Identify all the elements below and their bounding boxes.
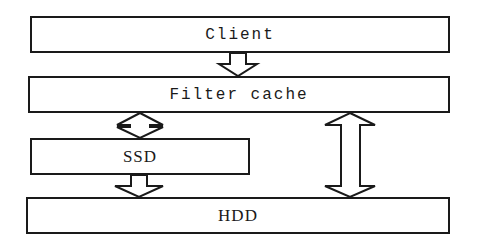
arrow-down-icon	[115, 175, 163, 197]
arrow-bidirectional-icon	[325, 113, 375, 197]
arrows-layer	[0, 0, 478, 247]
arrow-down-icon	[219, 53, 257, 76]
arrow-bidirectional-icon	[117, 113, 163, 138]
